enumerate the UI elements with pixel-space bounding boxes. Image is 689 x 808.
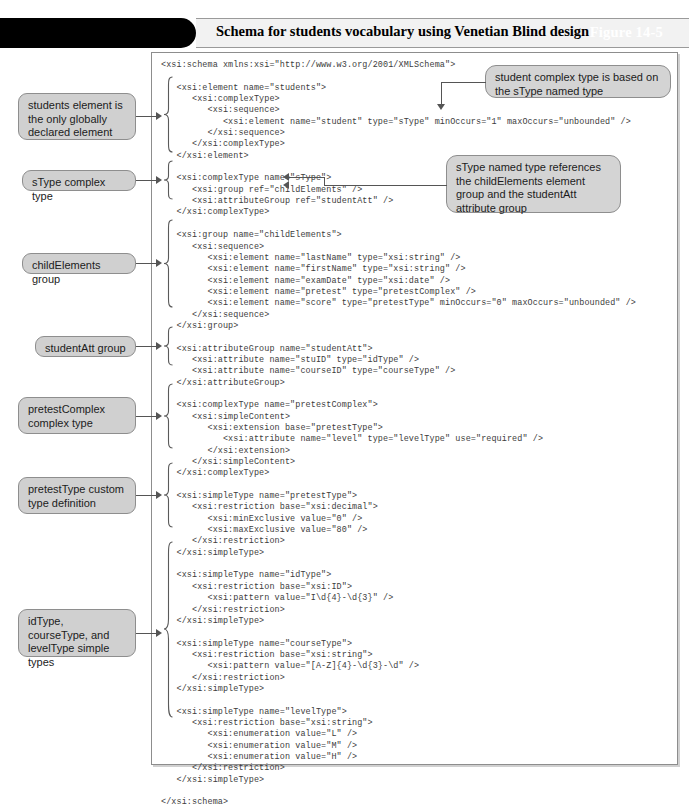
callout-student-complex-type-note: student complex type is based on the sTy… [485,65,671,98]
brace-childelements-group [163,219,174,308]
arrow-stype-references-note-lower [283,181,289,189]
leader-line-students-element [136,116,156,117]
callout-simple-types: idType, courseType, and levelType simple… [18,609,136,657]
leader-line-pretestcomplex-complex-type [136,416,156,417]
callout-stype-references-note: sType named type references the childEle… [446,155,621,213]
arrow-students-element [156,112,162,120]
figure-number-tab [0,18,196,48]
leader-line-studentatt-group [136,346,156,347]
arrow-studentatt-group [156,342,162,350]
brace-students-element [163,76,174,153]
callout-studentatt-group: studentAtt group [35,336,136,357]
leader-line-student-complex-type-note-vertical [441,82,442,105]
brace-simple-types-group [163,541,174,719]
arrow-stype-complex-type [156,176,162,184]
arrow-stype-references-note-upper [283,173,289,181]
leader-line-simple-types [136,633,156,634]
callout-pretestcomplex-complex-type: pretestComplex complex type [18,397,136,434]
leader-line-stype-references-note-vertical [324,177,325,186]
callout-childelements-group-text: childElements group [32,259,100,285]
figure-title: Schema for students vocabulary using Ven… [216,23,589,40]
callout-studentatt-group-text: studentAtt group [45,342,126,354]
brace-pretesttype-simple-type [163,462,174,528]
callout-stype-references-note-text: sType named type references the childEle… [456,161,601,214]
figure-header: Figure 14-5 Schema for students vocabula… [0,18,689,48]
leader-line-childelements-group [136,263,156,264]
figure-number-label: Figure 14-5 [590,24,663,41]
callout-students-element: students element is the only globally de… [18,93,136,140]
leader-line-student-complex-type-note [441,82,486,83]
arrow-childelements-group [156,259,162,267]
callout-pretesttype-custom-type-text: pretestType custom type definition [28,483,124,509]
arrow-pretestcomplex-complex-type [156,412,162,420]
arrow-student-complex-type-note [437,104,445,110]
leader-line-stype-references-note-upper [289,177,325,178]
callout-stype-complex-type: sType complex type [22,170,136,191]
leader-line-stype-references-note [324,185,447,186]
callout-students-element-text: students element is the only globally de… [28,99,123,138]
arrow-simple-types [156,629,162,637]
brace-pretestcomplex-complex-type [163,383,174,449]
brace-studentatt-group [163,326,174,366]
brace-stype-complex-type [163,160,174,200]
callout-stype-complex-type-text: sType complex type [32,176,105,202]
leader-line-pretesttype-custom-type [136,495,156,496]
callout-pretesttype-custom-type: pretestType custom type definition [18,477,136,514]
callout-student-complex-type-note-text: student complex type is based on the sTy… [495,71,658,97]
leader-line-stype-complex-type [136,180,156,181]
arrow-pretesttype-custom-type [156,491,162,499]
callout-simple-types-text: idType, courseType, and levelType simple… [28,615,109,668]
callout-childelements-group: childElements group [22,253,136,274]
callout-pretestcomplex-complex-type-text: pretestComplex complex type [28,403,105,429]
